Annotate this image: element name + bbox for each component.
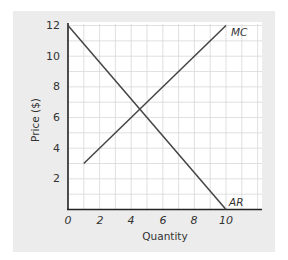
y-tick-2: 2 xyxy=(53,172,60,185)
x-tick-8: 8 xyxy=(191,214,198,227)
x-tick-2: 2 xyxy=(97,214,104,227)
plot-area xyxy=(68,22,262,209)
chart: 12 10 8 6 4 2 0 2 4 6 8 10 Quantity Pric… xyxy=(0,0,288,260)
ar-label: AR xyxy=(228,196,243,208)
x-tick-0: 0 xyxy=(65,214,72,227)
y-tick-12: 12 xyxy=(46,19,60,32)
mc-label: MC xyxy=(231,26,248,38)
x-tick-10: 10 xyxy=(219,214,233,227)
x-tick-4: 4 xyxy=(128,214,135,227)
y-tick-6: 6 xyxy=(53,111,60,124)
y-tick-8: 8 xyxy=(53,80,60,93)
x-axis-label: Quantity xyxy=(142,230,187,242)
x-tick-6: 6 xyxy=(160,214,167,227)
y-tick-4: 4 xyxy=(53,142,60,155)
y-axis-label: Price ($) xyxy=(29,98,41,142)
y-tick-10: 10 xyxy=(46,50,60,63)
